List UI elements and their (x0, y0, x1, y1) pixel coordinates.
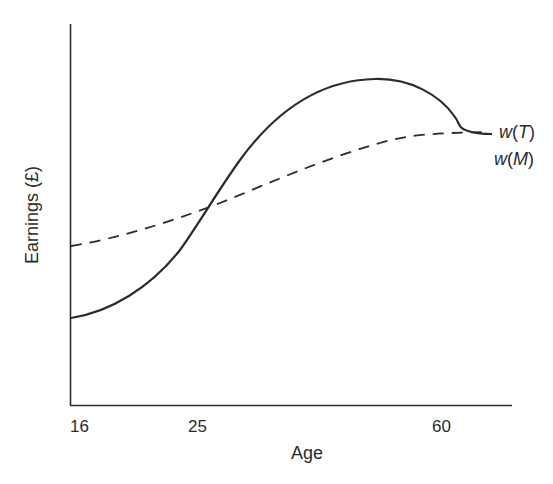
chart: 16 25 60 Age Earnings (£) w(T) w(M) (0, 0, 553, 484)
wM-var: M (513, 149, 528, 169)
wM-close-paren: ) (528, 149, 534, 169)
wT-w: w (499, 122, 513, 142)
series-wT-line (71, 79, 492, 318)
wT-close-paren: ) (529, 122, 535, 142)
x-tick-16: 16 (70, 417, 89, 436)
series-wM-line (71, 130, 395, 246)
series-wM-dashed-line (71, 132, 488, 246)
x-axis-label: Age (291, 443, 323, 463)
x-tick-25: 25 (188, 417, 207, 436)
series-wT-label: w(T) (499, 122, 535, 142)
x-tick-60: 60 (432, 417, 451, 436)
y-axis-label: Earnings (£) (22, 166, 42, 264)
series-wM-label: w(M) (494, 149, 534, 169)
wM-w: w (494, 149, 508, 169)
